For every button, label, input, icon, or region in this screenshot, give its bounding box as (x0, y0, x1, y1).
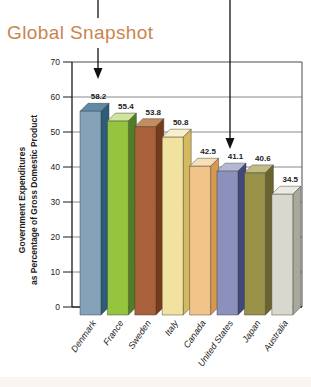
bar-value-label-sweden: 53.8 (146, 108, 162, 117)
bar-front-australia (272, 194, 293, 315)
bar-value-label-italy: 50.8 (173, 118, 189, 127)
y-axis-title-line2: as Percentage of Gross Domestic Product (29, 115, 39, 285)
page: Global Snapshot 010203040506070Governmen… (0, 0, 311, 387)
x-category-label-canada: Canada (181, 318, 207, 350)
bar-chart: 010203040506070Government Expendituresas… (0, 0, 311, 387)
y-tick-label-20: 20 (51, 232, 61, 242)
bar-front-japan (244, 173, 265, 315)
bar-front-sweden (135, 127, 156, 315)
y-tick-label-40: 40 (51, 162, 61, 172)
x-category-label-japan: Japan (240, 318, 263, 345)
x-category-label-denmark: Denmark (69, 318, 98, 354)
y-tick-label-60: 60 (51, 92, 61, 102)
x-category-label-australia: Australia (261, 318, 290, 353)
bar-front-denmark (80, 111, 101, 315)
bar-value-label-united-states: 41.1 (228, 152, 244, 161)
y-tick-label-0: 0 (55, 302, 60, 312)
bar-value-label-australia: 34.5 (283, 175, 299, 184)
y-tick-label-70: 70 (51, 57, 61, 67)
y-tick-label-10: 10 (51, 267, 61, 277)
bar-side-australia (293, 186, 301, 315)
bar-value-label-france: 55.4 (118, 102, 134, 111)
y-tick-label-30: 30 (51, 197, 61, 207)
bar-value-label-japan: 40.6 (255, 154, 271, 163)
bar-value-label-canada: 42.5 (200, 147, 216, 156)
page-bottom-tint (0, 377, 311, 387)
annotation-arrow-2-head (226, 138, 235, 149)
y-tick-label-50: 50 (51, 127, 61, 137)
bar-front-united-states (217, 171, 238, 315)
bar-value-label-denmark: 58.2 (91, 92, 107, 101)
x-category-label-italy: Italy (163, 318, 181, 338)
annotation-arrow-1-head (94, 68, 103, 79)
bar-front-france (107, 121, 128, 315)
y-axis-title-line1: Government Expenditures (17, 147, 27, 254)
x-category-label-sweden: Sweden (126, 318, 153, 350)
x-category-label-france: France (101, 318, 125, 347)
bar-front-canada (190, 166, 211, 315)
bar-front-italy (162, 137, 183, 315)
